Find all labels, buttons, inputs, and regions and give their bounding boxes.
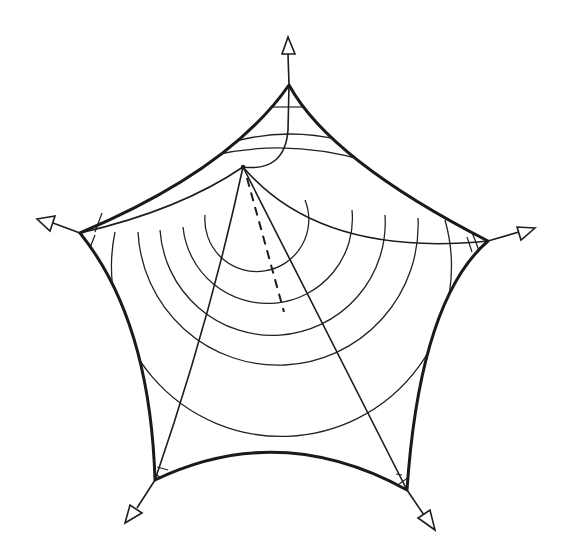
arrow-top bbox=[282, 37, 295, 85]
cable-mast-to-bottom-left bbox=[155, 167, 243, 480]
membrane-structure-diagram bbox=[0, 0, 564, 557]
contour-ring-top-1 bbox=[240, 134, 340, 140]
arrow-bottom-right bbox=[407, 490, 435, 530]
brace-bottom-right bbox=[396, 474, 402, 475]
cable-mast-to-right bbox=[243, 167, 488, 244]
contour-ring-6 bbox=[79, 228, 489, 519]
arrow-bottom-right-shaft bbox=[407, 490, 424, 515]
cable-mast-to-bottom-right bbox=[243, 167, 407, 490]
membrane-outline bbox=[80, 85, 488, 490]
arrow-bottom-right-head bbox=[418, 510, 435, 530]
inner-mast-point bbox=[241, 165, 245, 169]
brace-right bbox=[467, 237, 472, 252]
arrow-right-shaft bbox=[488, 232, 519, 241]
arrow-left-head bbox=[37, 216, 55, 231]
arrow-left-shaft bbox=[53, 223, 80, 233]
dashed-axis-line bbox=[247, 178, 284, 312]
arrow-left bbox=[37, 216, 80, 233]
arrow-right-head bbox=[517, 227, 535, 240]
contour-rings bbox=[79, 134, 489, 519]
arrow-top-head bbox=[282, 37, 295, 54]
arrow-bottom-left-shaft bbox=[137, 480, 155, 508]
arrow-bottom-left bbox=[125, 480, 155, 523]
arrow-bottom-left-head bbox=[125, 505, 142, 523]
cable-lines bbox=[80, 85, 488, 490]
arrow-right bbox=[488, 227, 535, 241]
cable-mast-to-top bbox=[243, 85, 289, 168]
contour-ring-4 bbox=[138, 218, 418, 365]
contour-ring-5 bbox=[111, 220, 451, 436]
arrow-top-shaft bbox=[288, 54, 289, 85]
